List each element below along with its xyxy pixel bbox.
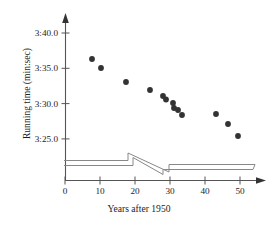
data-point — [89, 56, 95, 62]
data-point — [175, 107, 181, 113]
data-point — [225, 121, 231, 127]
x-axis — [65, 177, 266, 185]
data-point — [147, 87, 153, 93]
data-point — [98, 65, 104, 71]
x-tick-label-30: 30 — [165, 186, 174, 196]
x-tick-label-20: 20 — [130, 186, 139, 196]
y-axis-arrowhead — [62, 13, 69, 23]
data-point-series — [89, 56, 241, 139]
data-point — [170, 100, 176, 106]
axis-break-symbol — [64, 153, 255, 175]
data-point — [123, 79, 129, 85]
x-tick-label-50: 50 — [235, 186, 244, 196]
y-axis — [62, 13, 70, 180]
data-point — [179, 112, 185, 118]
y-tick-label-340: 3:40.0 — [10, 28, 58, 38]
x-axis-arrowhead — [256, 177, 266, 184]
y-tick-label-330: 3:30.0 — [10, 99, 58, 109]
data-point — [163, 97, 169, 103]
x-axis-title: Years after 1950 — [0, 203, 278, 214]
scatter-plot-figure: 3:40.0 3:35.0 3:30.0 3:25.0 0 10 20 30 4… — [0, 0, 278, 227]
data-point — [213, 111, 219, 117]
x-tick-label-40: 40 — [200, 186, 209, 196]
x-tick-label-10: 10 — [95, 186, 104, 196]
data-point — [235, 133, 241, 139]
y-tick-label-325: 3:25.0 — [10, 134, 58, 144]
y-tick-label-335: 3:35.0 — [10, 63, 58, 73]
x-tick-label-0: 0 — [63, 186, 68, 196]
y-axis-title: Running time (min:sec) — [21, 19, 32, 169]
